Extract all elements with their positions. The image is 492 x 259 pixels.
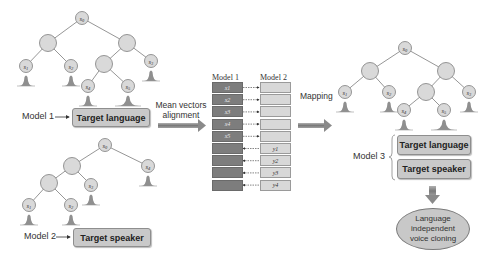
gaussian-distribution-icon xyxy=(141,176,155,187)
model1-vector-cell: x1 xyxy=(212,82,243,93)
model2-vector-cell: y1 xyxy=(260,143,291,154)
model1-vector-cell: x4 xyxy=(212,119,243,130)
tree1-node-n2 xyxy=(119,35,136,52)
tree3-edges xyxy=(345,48,469,110)
output-line3: voice cloning xyxy=(410,234,456,244)
model2-vector-cell: y2 xyxy=(260,155,291,166)
model1-vector-cell xyxy=(212,167,243,178)
model1-vector-cell xyxy=(212,180,243,191)
tree2-node-s2: s2 xyxy=(62,199,80,226)
tree2-node-n1 xyxy=(64,158,81,175)
model1-label: Model 1 xyxy=(22,111,54,121)
tree2-edge xyxy=(105,145,148,166)
model3-bracket xyxy=(389,135,395,180)
gaussian-distribution-icon xyxy=(64,76,78,87)
tree1-node-s0: s0 xyxy=(76,12,89,25)
tree2-node-s4: s4 xyxy=(139,160,157,187)
gaussian-distribution-icon xyxy=(19,76,33,87)
gaussian-distribution-icon xyxy=(84,195,98,206)
tree2-node-s1: s1 xyxy=(20,199,38,226)
gaussian-distribution-icon xyxy=(144,71,158,82)
tree1-node-s4: s4 xyxy=(79,80,97,107)
mapping-label: Mapping xyxy=(300,91,333,101)
output-line2: independent xyxy=(410,224,456,234)
output-line1: Language xyxy=(410,214,456,224)
vector-connectors xyxy=(243,88,259,186)
alignment-label-line2: alignment xyxy=(155,110,207,120)
tree1-node-n3 xyxy=(96,56,113,73)
target-language-box-model3: Target language xyxy=(397,135,471,155)
model3-label: Model 3 xyxy=(353,151,385,161)
model1-vector-cell xyxy=(212,155,243,166)
tree2-nodes: s0s4s3s1s2 xyxy=(20,139,157,226)
gaussian-distribution-icon xyxy=(22,215,36,226)
gaussian-distribution-icon xyxy=(382,102,396,113)
tree3-node-s0: s0 xyxy=(399,42,412,55)
alignment-arrow-icon xyxy=(158,119,206,132)
model2-vector-cell xyxy=(260,119,291,130)
tree3-nodes: s0s1s2s3s4s5 xyxy=(336,42,478,131)
model1-column-header: Model 1 xyxy=(212,73,239,82)
model1-vector-cell: x2 xyxy=(212,94,243,105)
target-language-box-model1: Target language xyxy=(72,108,150,127)
model2-vector-cell: y4 xyxy=(260,180,291,191)
model1-vector-cell: x5 xyxy=(212,131,243,142)
tree1-nodes: s0s1s2s3s4s5 xyxy=(17,12,160,107)
tree1-node-s1: s1 xyxy=(17,60,35,87)
tree1-node-s5: s5 xyxy=(115,80,141,107)
voice-cloning-output-ellipse: Language independent voice cloning xyxy=(396,208,470,250)
model2-vector-cell xyxy=(260,82,291,93)
model2-vector-cell: y3 xyxy=(260,167,291,178)
model2-label: Model 2 xyxy=(24,231,56,241)
tree3-node-s1: s1 xyxy=(336,86,354,113)
tree2-node-s0: s0 xyxy=(99,139,112,152)
tree1-edges xyxy=(26,18,151,86)
gaussian-distribution-icon xyxy=(338,102,352,113)
target-speaker-box-model3: Target speaker xyxy=(397,159,471,179)
gaussian-distribution-icon xyxy=(433,120,455,131)
tree3-node-n1 xyxy=(362,63,379,80)
tree3-node-s3: s3 xyxy=(460,86,478,113)
tree1-node-s2: s2 xyxy=(62,60,80,87)
model2-column-header: Model 2 xyxy=(260,73,287,82)
tree3-node-s5: s5 xyxy=(431,104,457,131)
gaussian-distribution-icon xyxy=(117,96,139,107)
mapping-arrow-icon xyxy=(298,119,332,132)
model1-vector-cell xyxy=(212,143,243,154)
model2-vector-cell xyxy=(260,106,291,117)
tree3-node-s2: s2 xyxy=(380,86,398,113)
target-speaker-box-model2: Target speaker xyxy=(73,228,151,247)
down-arrow-icon xyxy=(425,186,440,204)
tree3-node-n3 xyxy=(418,84,435,101)
tree1-node-s3: s3 xyxy=(142,55,160,82)
tree3-node-s4: s4 xyxy=(395,104,413,131)
gaussian-distribution-icon xyxy=(81,96,95,107)
gaussian-distribution-icon xyxy=(462,102,476,113)
tree2-node-s3: s3 xyxy=(82,179,100,206)
tree1-node-n1 xyxy=(40,35,57,52)
tree3-node-n2 xyxy=(438,63,455,80)
alignment-label-line1: Mean vectors xyxy=(155,100,207,110)
tree2-node-n2 xyxy=(41,175,58,192)
model2-vector-cell xyxy=(260,131,291,142)
model2-vector-cell xyxy=(260,94,291,105)
alignment-label: Mean vectors alignment xyxy=(155,100,207,120)
gaussian-distribution-icon xyxy=(64,215,78,226)
gaussian-distribution-icon xyxy=(397,120,411,131)
model1-vector-cell: x3 xyxy=(212,106,243,117)
